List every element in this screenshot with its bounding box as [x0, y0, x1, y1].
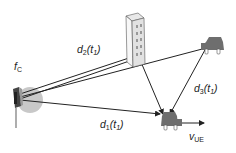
path-d1	[20, 100, 160, 114]
path-d3	[20, 48, 206, 114]
label-fc: fC	[14, 61, 22, 73]
label-d2: d2(t1)	[77, 44, 101, 56]
label-d1: d1(t1)	[100, 119, 124, 131]
fc-sub: C	[17, 66, 22, 73]
label-d3: d3(t1)	[194, 83, 218, 95]
d2-close: )	[97, 43, 101, 55]
building-icon	[126, 13, 145, 67]
d1-close: )	[120, 118, 124, 130]
multipath-diagram: fC d2(t1) d3(t1) d1(t1) vUE	[0, 0, 236, 153]
vue-sub: UE	[194, 136, 204, 143]
label-vue: vUE	[189, 131, 204, 143]
path-ray	[20, 58, 138, 99]
d3-close: )	[214, 82, 218, 94]
ue-car-icon	[161, 112, 182, 130]
